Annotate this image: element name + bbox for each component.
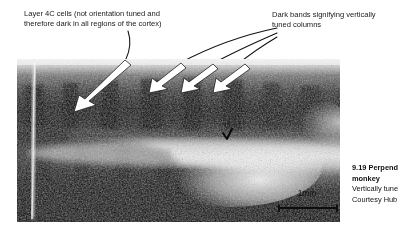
figure-title: Perpend <box>368 163 398 172</box>
scale-bar: 1mm <box>276 188 346 217</box>
figure-caption-title-line1: 9.19 Perpend <box>352 163 412 174</box>
annotation-dark-bands-label: Dark bands signifying vertically tuned c… <box>272 10 412 31</box>
figure-caption-body-line2: Courtesy Hub <box>352 195 412 206</box>
leader-line-layer4c <box>126 31 130 59</box>
scale-bar-rule <box>276 204 342 213</box>
figure-number: 9.19 <box>352 163 368 172</box>
scale-bar-label: 1mm <box>276 188 338 199</box>
figure-caption-title-line2: monkey <box>352 174 412 185</box>
figure-caption: 9.19 Perpend monkey Vertically tune Cour… <box>352 163 412 205</box>
annotation-layer-4c-label: Layer 4C cells (not orientation tuned an… <box>24 9 239 30</box>
leader-line-band-1 <box>180 28 277 63</box>
figure-caption-body-line1: Vertically tune <box>352 184 412 195</box>
